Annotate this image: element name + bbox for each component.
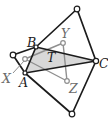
label-Z: Z — [68, 81, 78, 96]
label-Y: Y — [61, 26, 71, 41]
vertex-circle-Y — [61, 41, 66, 46]
black-edge-CP1 — [77, 9, 96, 61]
label-C: C — [99, 56, 108, 71]
black-edge-BP1 — [36, 9, 77, 47]
geometry-diagram: BYTCXAZ — [0, 0, 108, 127]
vertex-circle-P1 — [74, 6, 80, 12]
label-A: A — [18, 75, 28, 90]
vertex-circle-C — [93, 58, 98, 63]
vertex-circle-P2 — [10, 52, 16, 58]
shaded-triangle-T — [25, 47, 96, 73]
label-B: B — [26, 35, 36, 50]
vertex-circle-X — [23, 57, 28, 62]
label-X: X — [1, 71, 12, 86]
vertex-circle-P3 — [69, 111, 75, 117]
geometry-svg: BYTCXAZ — [0, 0, 108, 127]
